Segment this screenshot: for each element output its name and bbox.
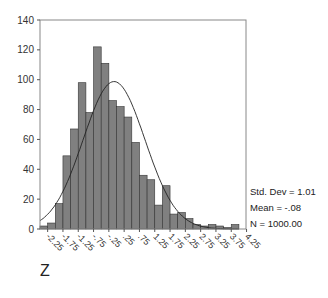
histogram-bar: [124, 117, 132, 229]
y-tick-label: 40: [23, 164, 35, 175]
histogram-bar: [185, 219, 193, 229]
y-tick-label: 20: [23, 194, 35, 205]
histogram-bars: [40, 47, 239, 229]
x-tick-label: 2.75: [197, 231, 216, 250]
n-label: N = 1000.00: [250, 218, 302, 229]
histogram-bar: [109, 101, 117, 229]
histogram-bar: [63, 156, 71, 229]
x-tick-label: .25: [121, 231, 137, 247]
histogram-bar: [71, 129, 79, 229]
histogram-bar: [162, 186, 170, 229]
histogram-bar: [55, 204, 63, 229]
histogram-bar: [117, 107, 125, 229]
y-tick-label: 60: [23, 134, 35, 145]
x-tick-label: 1.75: [167, 231, 186, 250]
histogram-bar: [48, 223, 56, 229]
histogram-chart: 020406080100120140 -2.25-1.75-1.25-.75-.…: [0, 0, 328, 298]
histogram-bar: [231, 225, 239, 229]
x-tick-label: 2.25: [182, 231, 201, 250]
mean-label: Mean = -.08: [250, 202, 301, 213]
y-tick-label: 80: [23, 104, 35, 115]
x-tick-label: 1.25: [151, 231, 170, 250]
histogram-bar: [155, 205, 163, 229]
x-axis: -2.25-1.75-1.25-.75-.25.25.751.251.752.2…: [44, 229, 262, 253]
y-axis: 020406080100120140: [17, 15, 40, 235]
histogram-bar: [94, 47, 102, 229]
y-tick-label: 140: [17, 15, 34, 26]
x-axis-label: Z: [40, 262, 50, 280]
x-tick-label: -.25: [105, 231, 123, 249]
histogram-bar: [132, 142, 140, 229]
std-dev-label: Std. Dev = 1.01: [250, 186, 316, 197]
histogram-bar: [86, 113, 94, 229]
histogram-bar: [139, 175, 147, 229]
y-tick-label: 100: [17, 74, 34, 85]
x-tick-label: .75: [136, 231, 152, 247]
x-tick-label: 3.25: [213, 231, 232, 250]
x-tick-label: 3.75: [228, 231, 247, 250]
histogram-bar: [170, 214, 178, 229]
y-tick-label: 120: [17, 44, 34, 55]
histogram-bar: [78, 83, 86, 229]
histogram-bar: [147, 180, 155, 229]
y-tick-label: 0: [28, 224, 34, 235]
x-tick-label: 4.25: [243, 231, 262, 250]
